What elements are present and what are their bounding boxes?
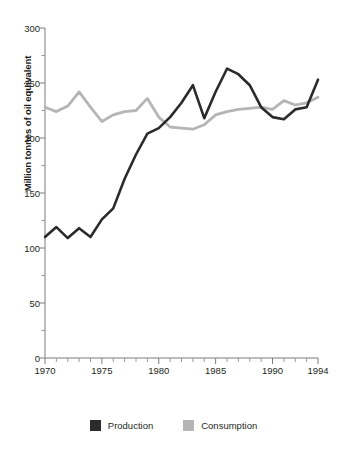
chart-legend: ProductionConsumption	[0, 420, 347, 431]
legend-swatch-icon	[183, 420, 194, 431]
legend-label: Consumption	[201, 420, 257, 431]
x-tick-label: 1994	[307, 365, 328, 376]
legend-item: Consumption	[183, 420, 257, 431]
x-tick-label: 1970	[34, 365, 55, 376]
legend-label: Production	[108, 420, 153, 431]
plot-area: 050100150200250300 197019751980198519901…	[45, 28, 318, 358]
legend-item: Production	[90, 420, 153, 431]
y-tick-label: 0	[35, 353, 40, 364]
y-tick-label: 200	[24, 133, 40, 144]
x-tick-label: 1985	[205, 365, 226, 376]
line-chart-svg	[45, 28, 318, 358]
legend-swatch-icon	[90, 420, 101, 431]
x-tick-label: 1975	[91, 365, 112, 376]
x-tick-label: 1990	[262, 365, 283, 376]
x-tick-label: 1980	[148, 365, 169, 376]
y-tick-label: 250	[24, 78, 40, 89]
chart-container: Million tonnes of oil equivalent 0501001…	[0, 0, 347, 463]
y-tick-label: 50	[29, 298, 40, 309]
series-line-production	[45, 69, 318, 238]
y-tick-label: 300	[24, 23, 40, 34]
series-line-consumption	[45, 92, 318, 129]
y-tick-label: 150	[24, 188, 40, 199]
y-tick-label: 100	[24, 243, 40, 254]
